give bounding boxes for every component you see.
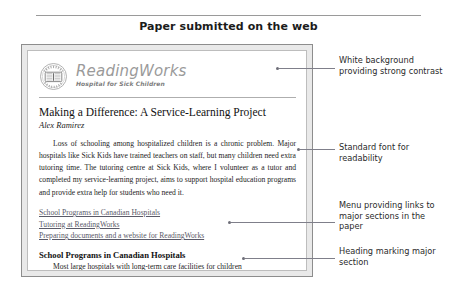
leader-line-4 <box>245 258 335 259</box>
link-tutoring[interactable]: Tutoring at ReadingWorks <box>39 219 296 231</box>
callout-white-background: White background providing strong contra… <box>339 55 447 76</box>
link-school-programs[interactable]: School Programs in Canadian Hospitals <box>39 207 296 219</box>
article-author: Alex Ramirez <box>39 120 296 130</box>
caption-top-rule <box>36 15 421 16</box>
callout-menu-links: Menu providing links to major sections i… <box>339 200 447 232</box>
leader-line-3 <box>231 222 335 223</box>
page-content: ReadingWorks Hospital for Sick Children … <box>39 59 296 271</box>
brand-block: ReadingWorks Hospital for Sick Children <box>76 64 187 89</box>
article-title: Making a Difference: A Service-Learning … <box>39 105 296 119</box>
link-preparing-documents[interactable]: Preparing documents and a website for Re… <box>39 230 296 242</box>
masthead-divider <box>39 97 296 98</box>
web-page-panel: ReadingWorks Hospital for Sick Children … <box>27 50 307 271</box>
section-link-menu: School Programs in Canadian Hospitals Tu… <box>39 207 296 242</box>
leader-line-1 <box>279 68 335 69</box>
leader-line-2 <box>300 149 335 150</box>
section-first-line: Most large hospitals with long-term care… <box>39 262 296 271</box>
article-body: Loss of schooling among hospitalized chi… <box>39 138 296 199</box>
callout-standard-font: Standard font for readability <box>339 142 447 163</box>
screenshot-frame: ReadingWorks Hospital for Sick Children … <box>21 44 313 277</box>
callout-heading-marking: Heading marking major section <box>339 246 447 267</box>
figure-caption: Paper submitted on the web <box>0 20 457 33</box>
brand-tagline: Hospital for Sick Children <box>76 80 187 87</box>
open-book-crest-icon <box>39 62 68 91</box>
site-masthead: ReadingWorks Hospital for Sick Children <box>39 59 296 93</box>
brand-name: ReadingWorks <box>76 64 187 80</box>
